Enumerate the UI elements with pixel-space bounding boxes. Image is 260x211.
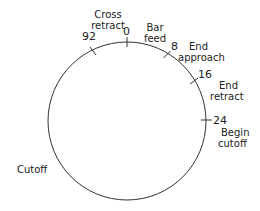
tick-label-8: 8 [171, 41, 178, 52]
event-end-retract-line2: retract [210, 91, 244, 102]
event-end-retract-line1: End [210, 80, 244, 91]
event-cutoff-line1: Cutoff [17, 164, 47, 175]
event-bar-feed-line1: Bar [140, 22, 170, 33]
event-cross-retract-line1: Cross [88, 9, 128, 20]
event-bar-feed-line2: feed [140, 33, 170, 44]
event-cutoff: Cutoff [17, 164, 47, 175]
tick-label-92: 92 [82, 31, 96, 42]
event-end-approach: End approach [178, 41, 225, 63]
event-end-approach-line1: End [178, 41, 225, 52]
event-end-approach-line2: approach [178, 52, 225, 63]
tick-label-16: 16 [198, 69, 212, 80]
event-cross-retract-line2: retract [88, 20, 128, 31]
event-begin-cutoff-line2: cutoff [218, 138, 249, 149]
event-begin-cutoff-line1: Begin [218, 127, 249, 138]
event-begin-cutoff: Begin cutoff [218, 127, 249, 149]
tick-label-24: 24 [213, 115, 227, 126]
event-cross-retract: Cross retract [88, 9, 128, 31]
event-end-retract: End retract [210, 80, 244, 102]
event-bar-feed: Bar feed [140, 22, 170, 44]
cycle-circle [48, 42, 206, 200]
cycle-diagram [0, 0, 260, 211]
